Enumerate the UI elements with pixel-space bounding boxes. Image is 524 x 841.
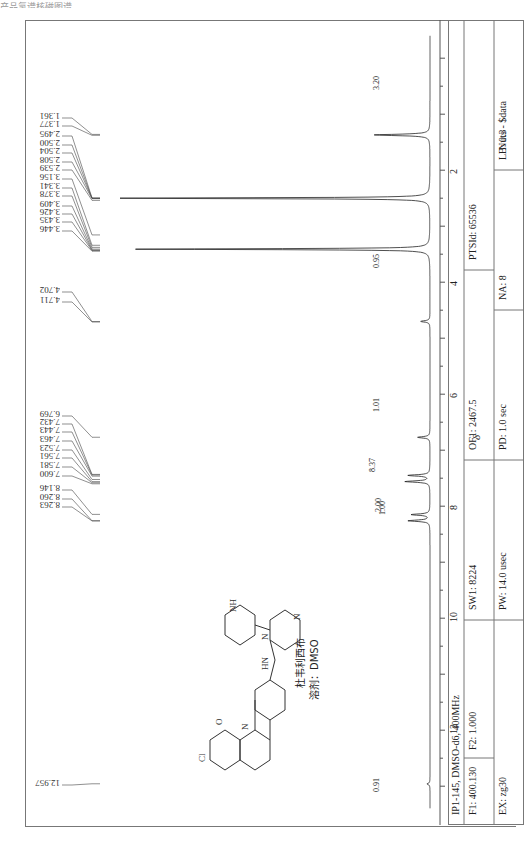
info-row1-cell: SW1: 8224 <box>467 565 478 610</box>
svg-text:N: N <box>260 633 270 640</box>
info-row2-cell: PD: 1.0 sec <box>497 404 508 450</box>
info-row2-cell: Nuts - $data <box>497 101 508 150</box>
chemical-structure: Cl O N HN N N NH <box>0 0 524 841</box>
structure-drawing <box>210 605 300 770</box>
svg-text:Cl: Cl <box>197 753 207 762</box>
info-row1-cell: PTSId: 65536 <box>467 204 478 260</box>
svg-text:N: N <box>240 723 250 730</box>
acquisition-info-box: IP1-145, DMSO-d6, 400MHzF1: 400.130F2: 1… <box>448 20 524 825</box>
info-row1-cell: F2: 1.000 <box>467 712 478 750</box>
info-title: IP1-145, DMSO-d6, 400MHz <box>450 695 461 815</box>
info-row1-cell: F1: 400.130 <box>467 767 478 815</box>
svg-text:O: O <box>214 718 224 725</box>
info-row2-cell: EX: zg30 <box>497 777 508 815</box>
svg-text:N: N <box>292 613 302 620</box>
info-row2-cell: PW: 14.0 usec <box>497 552 508 610</box>
svg-text:NH: NH <box>228 599 238 612</box>
info-row1-cell: OF1: 2467.5 <box>467 399 478 450</box>
svg-text:HN: HN <box>260 657 270 670</box>
nmr-spectrum-page: 产品氢谱核磁图谱 1.3611.3772.4952.5002.5042.5082… <box>0 0 524 841</box>
info-row2-cell: NA: 8 <box>497 275 508 300</box>
